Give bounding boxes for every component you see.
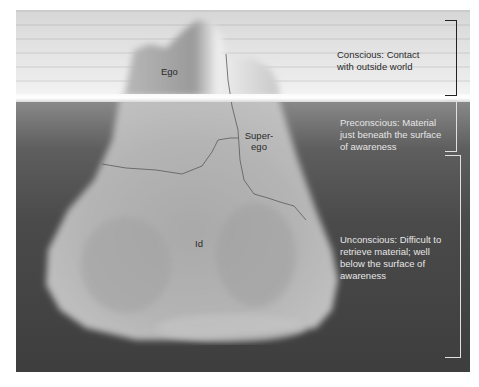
unconscious-line1: Unconscious: Difficult to — [340, 234, 441, 246]
preconscious-bracket — [445, 100, 457, 152]
preconscious-line1: Preconscious: Material — [340, 117, 441, 129]
unconscious-line2: retrieve material; well — [340, 246, 441, 258]
conscious-description: Conscious: Contact with outside world — [337, 49, 419, 73]
superego-label-line2: ego — [244, 141, 274, 152]
preconscious-line2: just beneath the surface — [340, 129, 441, 141]
unconscious-bracket — [445, 155, 461, 358]
superego-label: Super- ego — [244, 130, 274, 152]
waterline — [16, 94, 470, 102]
unconscious-description: Unconscious: Difficult to retrieve mater… — [340, 234, 441, 282]
ego-label: Ego — [161, 66, 178, 77]
conscious-line1: Conscious: Contact — [337, 49, 419, 61]
conscious-line2: with outside world — [337, 61, 419, 73]
conscious-bracket — [445, 20, 457, 96]
preconscious-line3: of awareness — [340, 141, 441, 153]
preconscious-description: Preconscious: Material just beneath the … — [340, 117, 441, 153]
superego-label-line1: Super- — [244, 130, 274, 141]
unconscious-line3: below the surface of — [340, 258, 441, 270]
id-label: Id — [195, 238, 203, 249]
unconscious-line4: awareness — [340, 270, 441, 282]
